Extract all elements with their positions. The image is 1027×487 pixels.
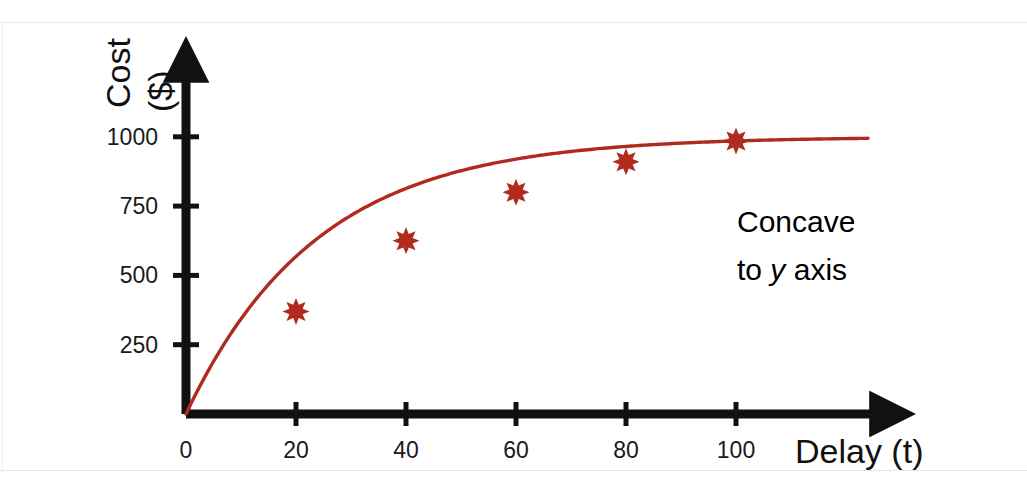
x-axis-title: Delay (t) [795,432,923,470]
y-axis-title-line2: ($) [141,70,179,112]
data-point-marker [613,148,640,175]
data-point-marker [503,179,530,206]
data-point-marker [283,298,310,325]
axes-layer [186,72,880,414]
y-axis-title-line1: Cost [99,38,137,108]
annotation-line-2-prefix: to [737,253,770,286]
annotation-concave: Concave to y axis [737,205,855,286]
annotation-line-2: to y axis [737,253,847,286]
x-tick-label: 60 [503,437,529,463]
y-axis-title: Cost ($) [99,38,179,112]
y-tick-label: 1000 [107,124,158,150]
x-tick-label: 100 [717,437,755,463]
x-tick-label: 40 [393,437,419,463]
y-tick-label: 250 [120,332,158,358]
x-tick-label: 80 [613,437,639,463]
annotation-line-1: Concave [737,205,855,238]
cost-vs-delay-chart: Cost ($) 2505007501000020406080100 Delay… [0,0,1027,487]
y-tick-label: 500 [120,262,158,288]
chart-figure: Cost ($) 2505007501000020406080100 Delay… [0,0,1027,487]
x-tick-label: 0 [180,437,193,463]
y-tick-label: 750 [120,193,158,219]
data-point-marker [723,127,750,154]
data-point-marker [393,227,420,254]
annotation-line-2-suffix: axis [785,253,847,286]
x-tick-label: 20 [283,437,309,463]
